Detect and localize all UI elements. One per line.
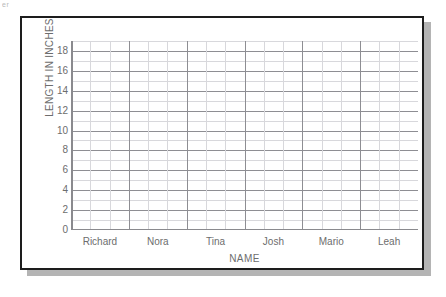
plot-area-wrapper <box>71 41 418 230</box>
x-tick-label: Mario <box>319 236 344 248</box>
y-tick-label: 8 <box>42 145 68 155</box>
plot-area <box>71 41 418 230</box>
x-axis-tick-labels: RichardNoraTinaJoshMarioLeah <box>71 236 418 250</box>
y-tick-label: 2 <box>42 205 68 215</box>
x-tick-label: Josh <box>263 236 284 248</box>
page-bottom-strip <box>0 280 446 297</box>
x-tick-label: Leah <box>378 236 400 248</box>
x-axis-title: NAME <box>71 253 418 264</box>
figure-frame: LENGTH IN INCHES 024681012141618 Richard… <box>20 16 424 270</box>
y-tick-label: 18 <box>42 46 68 56</box>
bar-chart: LENGTH IN INCHES 024681012141618 Richard… <box>22 18 422 268</box>
y-axis-tick-labels: 024681012141618 <box>42 41 68 230</box>
y-tick-label: 10 <box>42 126 68 136</box>
grid-lines <box>71 41 418 230</box>
y-tick-label: 0 <box>42 225 68 235</box>
y-tick-label: 4 <box>42 185 68 195</box>
y-tick-label: 14 <box>42 86 68 96</box>
y-tick-label: 12 <box>42 106 68 116</box>
scan-artifact-text: er <box>2 0 18 9</box>
y-tick-label: 16 <box>42 66 68 76</box>
x-tick-label: Nora <box>147 236 169 248</box>
x-tick-label: Richard <box>83 236 117 248</box>
x-tick-label: Tina <box>206 236 225 248</box>
y-tick-label: 6 <box>42 165 68 175</box>
